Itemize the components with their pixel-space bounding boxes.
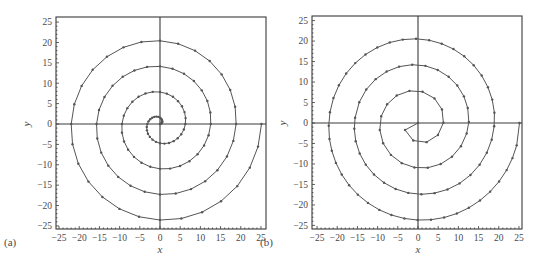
data-point-marker xyxy=(152,91,154,93)
data-point-marker xyxy=(378,209,380,211)
data-point-marker xyxy=(168,142,170,144)
data-point-marker xyxy=(163,142,165,144)
data-point-marker xyxy=(390,154,392,156)
x-tick-label: 0 xyxy=(416,233,421,243)
data-point-marker xyxy=(358,152,360,154)
y-tick-label: −20 xyxy=(37,201,52,211)
x-tick-label: −20 xyxy=(330,233,345,243)
data-point-marker xyxy=(172,140,174,142)
data-point-marker xyxy=(151,138,153,140)
data-point-marker xyxy=(159,65,161,67)
data-point-marker xyxy=(127,148,129,150)
data-point-marker xyxy=(487,86,489,88)
data-point-marker xyxy=(184,117,186,119)
data-point-marker xyxy=(123,114,125,116)
data-point-marker xyxy=(131,101,133,103)
data-point-marker xyxy=(206,100,208,102)
data-point-marker xyxy=(358,101,360,103)
data-point-marker xyxy=(184,123,186,125)
data-point-marker xyxy=(122,46,124,48)
data-point-marker xyxy=(505,169,507,171)
data-point-marker xyxy=(70,123,72,125)
data-point-marker xyxy=(491,98,493,100)
data-point-marker xyxy=(460,145,462,147)
data-point-marker xyxy=(220,200,222,202)
data-point-marker xyxy=(382,142,384,144)
data-point-marker xyxy=(175,192,177,194)
y-tick-label: 5 xyxy=(303,98,308,108)
data-point-marker xyxy=(180,217,182,219)
data-point-marker xyxy=(159,40,161,42)
x-tick-label: 20 xyxy=(236,233,246,243)
y-tick-label: 0 xyxy=(47,119,52,129)
spiral-figure: −25−20−15−10−50510152025−25−20−15−10−505… xyxy=(0,0,545,268)
data-point-marker xyxy=(201,89,203,91)
y-tick-label: −15 xyxy=(37,180,52,190)
data-point-marker xyxy=(149,118,151,120)
data-point-marker xyxy=(425,141,427,143)
y-tick-label: −10 xyxy=(37,160,52,170)
x-tick-label: 5 xyxy=(436,233,441,243)
data-point-marker xyxy=(335,162,337,164)
data-point-marker xyxy=(332,97,334,99)
y-axis-label: y xyxy=(276,120,288,126)
data-point-marker xyxy=(147,133,149,135)
data-point-marker xyxy=(365,163,367,165)
data-point-marker xyxy=(146,123,148,125)
data-point-marker xyxy=(103,96,105,98)
data-point-marker xyxy=(511,157,513,159)
data-point-marker xyxy=(80,85,82,87)
data-point-marker xyxy=(401,162,403,164)
data-point-marker xyxy=(396,94,398,96)
x-tick-label: 0 xyxy=(158,233,163,243)
data-point-marker xyxy=(204,180,206,182)
data-point-marker xyxy=(413,166,415,168)
spiral-line xyxy=(71,41,261,220)
data-point-marker xyxy=(354,117,356,119)
data-point-marker xyxy=(106,56,108,58)
data-point-marker xyxy=(491,139,493,141)
y-tick-label: −10 xyxy=(293,159,308,169)
data-point-marker xyxy=(137,96,139,98)
data-point-marker xyxy=(107,164,109,166)
data-point-marker xyxy=(77,163,79,165)
data-point-marker xyxy=(257,145,259,147)
x-tick-label: 5 xyxy=(178,233,183,243)
x-tick-label: 15 xyxy=(474,233,484,243)
data-point-marker xyxy=(389,41,391,43)
data-point-marker xyxy=(357,193,359,195)
data-point-marker xyxy=(353,128,355,130)
data-point-marker xyxy=(456,84,458,86)
data-point-marker xyxy=(404,129,406,131)
data-point-marker xyxy=(209,60,211,62)
y-tick-label: −20 xyxy=(293,200,308,210)
data-point-marker xyxy=(478,163,480,165)
data-point-marker xyxy=(151,117,153,119)
data-point-marker xyxy=(100,151,102,153)
data-point-marker xyxy=(159,91,161,93)
data-point-marker xyxy=(146,126,148,128)
data-point-marker xyxy=(133,156,135,158)
data-point-marker xyxy=(489,190,491,192)
data-point-marker xyxy=(486,152,488,154)
data-point-marker xyxy=(166,92,168,94)
data-point-marker xyxy=(348,184,350,186)
data-point-marker xyxy=(385,70,387,72)
data-point-marker xyxy=(493,112,495,114)
data-point-marker xyxy=(95,123,97,125)
data-point-marker xyxy=(71,143,73,145)
spiral-line xyxy=(329,39,520,220)
data-point-marker xyxy=(430,219,432,221)
data-point-marker xyxy=(468,121,470,123)
data-point-marker xyxy=(232,140,234,142)
data-point-marker xyxy=(451,156,453,158)
x-tick-label: −10 xyxy=(112,233,127,243)
data-point-marker xyxy=(398,65,400,67)
data-point-marker xyxy=(177,43,179,45)
y-tick-label: 15 xyxy=(299,57,309,67)
data-point-marker xyxy=(149,166,151,168)
data-point-marker xyxy=(234,106,236,108)
data-point-marker xyxy=(338,84,340,86)
data-point-marker xyxy=(91,69,93,71)
data-point-marker xyxy=(518,122,520,124)
